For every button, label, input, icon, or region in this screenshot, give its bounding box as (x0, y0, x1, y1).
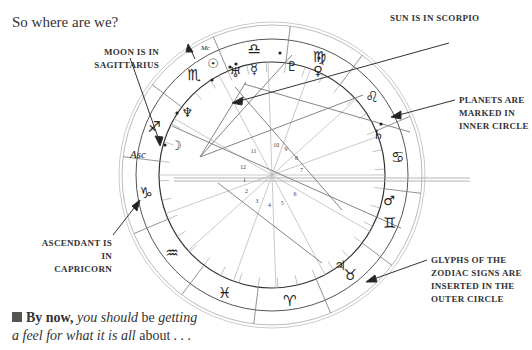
callout-line: CAPRICORN (30, 263, 112, 276)
ascendant-label: Asc (129, 148, 146, 160)
callout-line: GLYPHS OF THE (431, 254, 522, 267)
callout-planets: PLANETS ARE MARKED IN INNER CIRCLE (459, 94, 529, 133)
zodiac-capricorn-icon: ♑ (140, 184, 153, 202)
zodiac-gemini-icon: ♊ (383, 214, 396, 232)
house-number: 5 (281, 200, 284, 206)
house-number: 2 (245, 188, 248, 194)
footer-text: By now, you should be getting a feel for… (12, 309, 197, 345)
zodiac-aries-icon: ♈ (283, 292, 296, 310)
planet-neptune-icon: ♆ (181, 105, 193, 120)
callout-line: ASCENDANT IS IN (30, 237, 112, 263)
house-number: 6 (293, 191, 296, 197)
house-number: 3 (256, 198, 259, 204)
callout-ascendant: ASCENDANT IS IN CAPRICORN (30, 237, 112, 276)
planet-moon-icon: ☽ (170, 138, 182, 153)
callout-sun: SUN IS IN SCORPIO (390, 12, 479, 25)
house-number: 11 (251, 148, 257, 154)
zodiac-scorpio-icon: ♏ (187, 66, 201, 84)
callout-line: SUN IS IN SCORPIO (390, 12, 479, 25)
house-number: 9 (285, 146, 288, 152)
house-number: 8 (295, 155, 298, 161)
house-number: 4 (268, 202, 271, 208)
callout-line: SAGITTARIUS (64, 59, 159, 72)
house-number: 10 (273, 142, 279, 148)
footer-italic: a feel for what it is all (12, 328, 136, 343)
footer-ellipsis: . . . (170, 328, 191, 343)
callout-line: MARKED IN (459, 107, 529, 120)
bullet-square-icon (12, 312, 22, 322)
planet-venus-icon: ♀ (313, 63, 323, 78)
footer-plain: be (138, 310, 155, 325)
zodiac-cancer-icon: ♋ (391, 148, 404, 166)
planet-mercury-icon: ☿ (250, 62, 258, 77)
callout-line: PLANETS ARE (459, 94, 529, 107)
planet-jupiter-icon: ♃ (334, 258, 346, 273)
footer-bold: By now, (26, 310, 73, 325)
footer-italic: you should (73, 310, 138, 325)
house-number: 12 (240, 164, 246, 170)
callout-line: ZODIAC SIGNS ARE (431, 267, 522, 280)
zodiac-libra-icon: ♎ (248, 40, 261, 58)
house-number: 7 (300, 167, 303, 173)
zodiac-pisces-icon: ♓ (218, 284, 231, 302)
house-number: 1 (243, 177, 246, 183)
zodiac-aquarius-icon: ♒ (165, 244, 178, 262)
callout-line: INSERTED IN THE (431, 280, 522, 293)
footer-plain: about (136, 328, 171, 343)
planet-sun-icon: ☉ (207, 56, 219, 71)
midheaven-label: Mc (200, 44, 211, 52)
planet-mars-icon: ♂ (383, 193, 395, 208)
planet-saturn-icon: ♄ (372, 127, 384, 142)
footer-italic: getting (155, 310, 197, 325)
callout-glyphs: GLYPHS OF THE ZODIAC SIGNS ARE INSERTED … (431, 254, 522, 306)
callout-line: MOON IS IN (64, 46, 159, 59)
zodiac-leo-icon: ♌ (365, 88, 378, 106)
planet-pluto-icon: ♇ (286, 59, 298, 74)
callout-line: INNER CIRCLE (459, 120, 529, 133)
callout-moon: MOON IS IN SAGITTARIUS (64, 46, 159, 72)
callout-line: OUTER CIRCLE (431, 293, 522, 306)
